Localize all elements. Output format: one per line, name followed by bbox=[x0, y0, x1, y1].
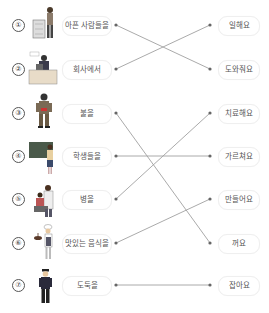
row-number-5: ⑤ bbox=[12, 193, 25, 206]
row-number-6: ⑥ bbox=[12, 237, 25, 250]
teacher-at-blackboard-icon bbox=[28, 140, 58, 178]
person-with-cart-icon bbox=[30, 4, 58, 42]
chef-icon bbox=[30, 224, 58, 262]
right-box-5: 만들어요 bbox=[218, 190, 260, 210]
firefighter-icon bbox=[30, 92, 58, 130]
row-number-7: ⑦ bbox=[12, 279, 25, 292]
office-worker-at-desk-icon bbox=[28, 50, 58, 88]
left-dot-5[interactable] bbox=[114, 197, 117, 200]
left-dot-1[interactable] bbox=[114, 23, 117, 26]
right-box-3: 치료해요 bbox=[218, 104, 260, 124]
left-box-1: 아픈 사람들을 bbox=[62, 16, 112, 36]
right-dot-6[interactable] bbox=[208, 241, 211, 244]
right-box-2: 도와줘요 bbox=[218, 60, 260, 80]
left-dot-2[interactable] bbox=[114, 67, 117, 70]
row-number-4: ④ bbox=[12, 150, 25, 163]
left-box-3: 불을 bbox=[62, 104, 112, 124]
right-box-1: 일해요 bbox=[218, 16, 260, 36]
left-dot-4[interactable] bbox=[114, 154, 117, 157]
right-dot-3[interactable] bbox=[208, 111, 211, 114]
left-box-4: 학생들을 bbox=[62, 147, 112, 167]
right-dot-5[interactable] bbox=[208, 197, 211, 200]
left-dot-7[interactable] bbox=[114, 283, 117, 286]
connection-line-6-5 bbox=[116, 199, 210, 243]
left-box-7: 도둑을 bbox=[62, 276, 112, 296]
right-box-6: 꺼요 bbox=[218, 234, 260, 254]
row-number-3: ③ bbox=[12, 107, 25, 120]
left-box-2: 회사에서 bbox=[62, 60, 112, 80]
doctor-with-patient-icon bbox=[30, 183, 58, 221]
connection-line-2-1 bbox=[116, 25, 210, 69]
left-dot-6[interactable] bbox=[114, 241, 117, 244]
connection-line-1-2 bbox=[116, 25, 210, 69]
right-dot-4[interactable] bbox=[208, 154, 211, 157]
left-dot-3[interactable] bbox=[114, 111, 117, 114]
row-number-1: ① bbox=[12, 19, 25, 32]
connection-line-3-6 bbox=[116, 113, 210, 243]
right-dot-2[interactable] bbox=[208, 67, 211, 70]
police-officer-icon bbox=[30, 268, 58, 306]
right-dot-1[interactable] bbox=[208, 23, 211, 26]
right-box-4: 가르쳐요 bbox=[218, 147, 260, 167]
left-box-5: 병을 bbox=[62, 190, 112, 210]
connection-line-5-3 bbox=[116, 113, 210, 199]
right-box-7: 잡아요 bbox=[218, 276, 260, 296]
right-dot-7[interactable] bbox=[208, 283, 211, 286]
left-box-6: 맛있는 음식을 bbox=[62, 234, 112, 254]
row-number-2: ② bbox=[12, 63, 25, 76]
